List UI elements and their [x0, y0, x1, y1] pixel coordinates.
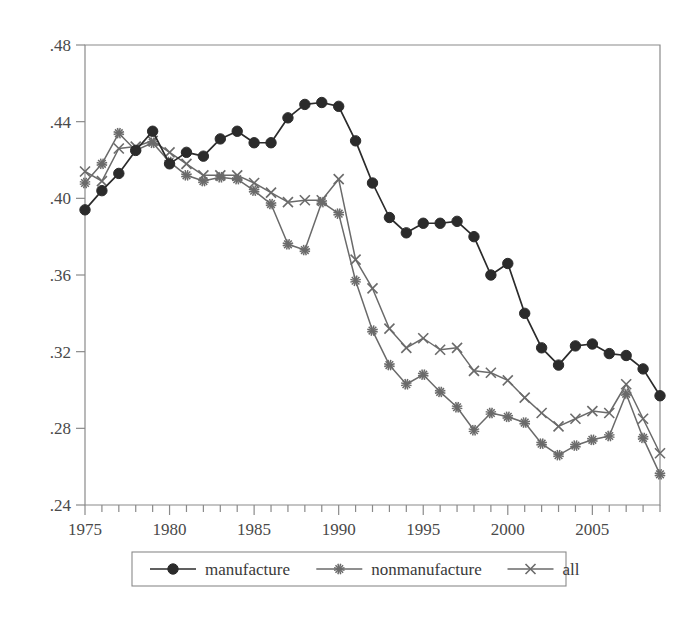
data-point-manufacture-2002	[536, 343, 546, 353]
data-point-all-2003	[554, 421, 564, 431]
chart-axes	[85, 45, 660, 505]
data-point-manufacture-1981	[181, 147, 191, 157]
legend-label-all: all	[563, 560, 580, 579]
data-point-all-2007	[621, 379, 631, 389]
data-point-nonmanufacture-2005	[587, 435, 597, 445]
data-point-manufacture-2004	[570, 341, 580, 351]
data-point-manufacture-1999	[486, 270, 496, 280]
data-point-manufacture-1993	[384, 212, 394, 222]
chart-canvas: .24.28.32.36.40.44.48 197519801985199019…	[0, 0, 700, 626]
series-manufacture	[80, 97, 665, 401]
data-point-manufacture-1998	[469, 231, 479, 241]
data-point-all-1976	[97, 176, 107, 186]
data-point-manufacture-2007	[621, 350, 631, 360]
data-point-manufacture-1975	[80, 205, 90, 215]
data-point-manufacture-1992	[367, 178, 377, 188]
data-point-all-1981	[181, 159, 191, 169]
data-point-nonmanufacture-2002	[536, 438, 546, 448]
data-point-all-2000	[503, 375, 513, 385]
x-tick-label: 1975	[68, 520, 102, 539]
data-point-nonmanufacture-2004	[570, 440, 580, 450]
data-point-manufacture-1991	[350, 136, 360, 146]
y-tick-label: .48	[50, 36, 71, 55]
data-point-nonmanufacture-1992	[367, 325, 377, 335]
plot-frame	[85, 45, 660, 505]
data-point-nonmanufacture-1999	[486, 408, 496, 418]
legend-label-nonmanufacture: nonmanufacture	[371, 560, 481, 579]
data-point-manufacture-2008	[638, 364, 648, 374]
data-point-all-1993	[384, 324, 394, 334]
series-line-manufacture	[85, 103, 660, 396]
data-point-manufacture-2006	[604, 348, 614, 358]
y-tick-label: .44	[50, 113, 72, 132]
data-point-all-2002	[537, 408, 547, 418]
data-point-nonmanufacture-2001	[519, 417, 529, 427]
data-point-nonmanufacture-1990	[333, 208, 343, 218]
data-point-all-2008	[638, 414, 648, 424]
data-point-nonmanufacture-1997	[452, 402, 462, 412]
data-point-nonmanufacture-1982	[198, 176, 208, 186]
x-tick-label: 1995	[406, 520, 440, 539]
x-tick-label: 2005	[575, 520, 609, 539]
data-point-nonmanufacture-1998	[469, 425, 479, 435]
data-point-nonmanufacture-1986	[266, 199, 276, 209]
data-point-manufacture-1994	[401, 228, 411, 238]
data-point-nonmanufacture-1995	[418, 369, 428, 379]
data-point-manufacture-1984	[232, 126, 242, 136]
data-point-manufacture-2005	[587, 339, 597, 349]
x-axis-ticks: 1975198019851990199520002005	[68, 505, 660, 539]
data-point-manufacture-1985	[249, 138, 259, 148]
data-point-manufacture-1983	[215, 134, 225, 144]
data-point-all-1995	[418, 333, 428, 343]
data-point-all-2004	[570, 414, 580, 424]
chart-figure: .24.28.32.36.40.44.48 197519801985199019…	[0, 0, 700, 626]
data-point-all-1986	[266, 188, 276, 198]
data-point-all-2001	[520, 393, 530, 403]
chart-series-container	[80, 97, 665, 479]
data-point-nonmanufacture-1993	[384, 360, 394, 370]
data-point-manufacture-1997	[452, 216, 462, 226]
data-point-manufacture-2001	[520, 308, 530, 318]
data-point-manufacture-1987	[283, 113, 293, 123]
y-axis-ticks: .24.28.32.36.40.44.48	[50, 36, 85, 515]
data-point-all-1994	[401, 343, 411, 353]
data-point-manufacture-2003	[553, 360, 563, 370]
data-point-all-1985	[249, 178, 259, 188]
data-point-nonmanufacture-1989	[317, 197, 327, 207]
data-point-nonmanufacture-1991	[350, 276, 360, 286]
data-point-manufacture-2009	[655, 391, 665, 401]
data-point-manufacture-1990	[333, 101, 343, 111]
y-tick-label: .32	[50, 343, 71, 362]
data-point-manufacture-1996	[435, 218, 445, 228]
data-point-nonmanufacture-1981	[181, 170, 191, 180]
x-tick-label: 2000	[491, 520, 525, 539]
y-tick-label: .36	[50, 266, 71, 285]
data-point-manufacture-1977	[114, 168, 124, 178]
data-point-manufacture-1986	[266, 138, 276, 148]
data-point-manufacture-2000	[503, 258, 513, 268]
data-point-manufacture-1980	[164, 159, 174, 169]
legend-label-manufacture: manufacture	[205, 560, 290, 579]
data-point-nonmanufacture-2003	[553, 450, 563, 460]
data-point-nonmanufacture-1988	[300, 245, 310, 255]
data-point-nonmanufacture-1994	[401, 379, 411, 389]
x-tick-label: 1990	[322, 520, 356, 539]
data-point-nonmanufacture-2006	[604, 431, 614, 441]
x-tick-label: 1980	[153, 520, 187, 539]
data-point-manufacture-1988	[300, 99, 310, 109]
data-point-nonmanufacture-1977	[114, 128, 124, 138]
data-point-manufacture-1989	[317, 97, 327, 107]
data-point-manufacture-1979	[147, 126, 157, 136]
data-point-nonmanufacture-2000	[503, 412, 513, 422]
y-tick-label: .24	[50, 496, 72, 515]
x-tick-label: 1985	[237, 520, 271, 539]
chart-legend: manufacturenonmanufactureall	[132, 552, 580, 586]
data-point-nonmanufacture-1987	[283, 239, 293, 249]
data-point-nonmanufacture-2008	[638, 433, 648, 443]
data-point-manufacture-1995	[418, 218, 428, 228]
y-tick-label: .28	[50, 419, 71, 438]
y-tick-label: .40	[50, 189, 71, 208]
data-point-manufacture-1976	[97, 185, 107, 195]
data-point-manufacture-1982	[198, 151, 208, 161]
data-point-nonmanufacture-1976	[97, 159, 107, 169]
